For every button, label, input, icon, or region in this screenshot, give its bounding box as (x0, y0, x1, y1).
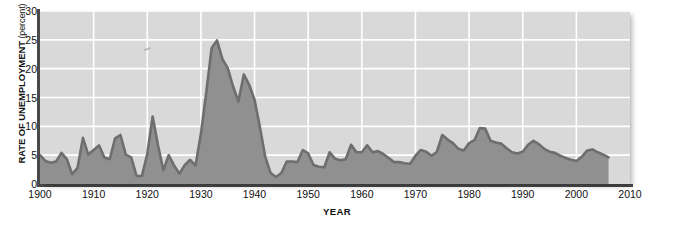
plot-area (40, 11, 630, 184)
x-axis-tick-label: 1910 (64, 188, 124, 200)
y-axis-tick-label: 15 (1, 92, 37, 104)
x-axis-tick-label: 1980 (439, 188, 499, 200)
x-axis-title: YEAR (0, 206, 674, 217)
y-axis-tick-label: 25 (1, 34, 37, 46)
plot-svg (40, 11, 630, 184)
x-axis-tick-label: 1940 (225, 188, 285, 200)
x-axis-tick-label: 1950 (278, 188, 338, 200)
x-axis-tick-label: 2010 (600, 188, 660, 200)
y-axis-tick-label: 20 (1, 63, 37, 75)
x-axis-tick-label: 1900 (10, 188, 70, 200)
x-axis-tick-label: 1960 (332, 188, 392, 200)
x-axis-tick-label: 1970 (385, 188, 445, 200)
unemployment-rate-chart: RATE OF UNEMPLOYMENT (percent) 051015202… (0, 0, 674, 230)
x-axis-tick-label: 1930 (171, 188, 231, 200)
y-axis-tick-label: 10 (1, 120, 37, 132)
y-axis-tick-label: 30 (1, 5, 37, 17)
x-axis-tick-label: 2000 (546, 188, 606, 200)
x-axis-tick-label: 1920 (117, 188, 177, 200)
y-axis-tick-label: 5 (1, 149, 37, 161)
x-axis-tick-label: 1990 (493, 188, 553, 200)
x-axis-tick-labels: 1900191019201930194019501960197019801990… (0, 188, 674, 204)
x-axis-line (37, 184, 633, 187)
